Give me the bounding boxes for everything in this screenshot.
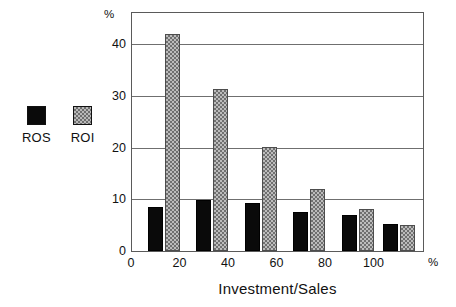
bar-chart-figure: ROS ROI % 010203040 020406080100 % Inves… bbox=[0, 0, 456, 307]
bar-roi-5 bbox=[400, 225, 415, 251]
bar-ros-2 bbox=[245, 203, 260, 251]
bar-ros-3 bbox=[293, 212, 308, 251]
bar-roi-4 bbox=[359, 209, 374, 251]
y-tick-label: 20 bbox=[112, 141, 126, 155]
bars-container bbox=[132, 13, 423, 251]
x-tick-label: 0 bbox=[128, 256, 135, 270]
y-tick-label: 0 bbox=[119, 244, 126, 258]
bar-ros-1 bbox=[196, 200, 211, 251]
y-tick-label: 40 bbox=[112, 37, 126, 51]
x-tick-label: 20 bbox=[173, 256, 187, 270]
legend-label-ros: ROS bbox=[22, 130, 51, 145]
legend-entry-roi: ROI bbox=[71, 106, 95, 145]
y-tick-label: 10 bbox=[112, 192, 126, 206]
y-axis-tick-labels: 010203040 bbox=[96, 12, 126, 252]
x-tick-label: 100 bbox=[363, 256, 384, 270]
x-axis-title: Investment/Sales bbox=[131, 280, 424, 297]
legend-swatch-roi-icon bbox=[73, 106, 92, 125]
bar-ros-4 bbox=[342, 215, 357, 251]
x-tick-label: 40 bbox=[221, 256, 235, 270]
x-axis-tick-labels: 020406080100 bbox=[131, 256, 424, 274]
bar-ros-0 bbox=[148, 207, 163, 251]
legend-swatch-ros-icon bbox=[27, 106, 46, 125]
bar-roi-1 bbox=[213, 89, 228, 251]
bar-roi-3 bbox=[310, 189, 325, 251]
legend-label-roi: ROI bbox=[71, 130, 95, 145]
plot-area bbox=[131, 12, 424, 252]
bar-roi-0 bbox=[165, 34, 180, 251]
legend-entry-ros: ROS bbox=[22, 106, 51, 145]
y-tick-label: 30 bbox=[112, 89, 126, 103]
bar-roi-2 bbox=[262, 147, 277, 252]
bar-ros-5 bbox=[383, 224, 398, 251]
x-axis-unit-label: % bbox=[428, 256, 438, 268]
x-tick-label: 60 bbox=[270, 256, 284, 270]
chart-legend: ROS ROI bbox=[22, 106, 95, 145]
x-tick-label: 80 bbox=[318, 256, 332, 270]
